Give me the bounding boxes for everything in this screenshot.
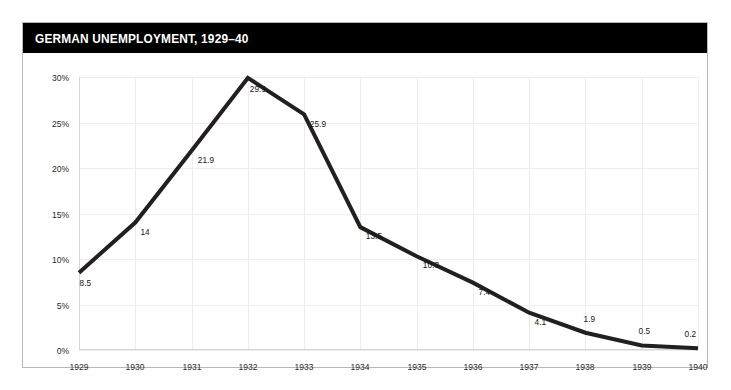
data-point-label: 21.9 bbox=[197, 155, 215, 165]
x-axis-tick-label: 1937 bbox=[519, 361, 540, 372]
x-axis-tick-text: 1940 bbox=[688, 361, 707, 372]
chart-title-bar: GERMAN UNEMPLOYMENT, 1929–40 bbox=[23, 23, 707, 53]
x-axis-tick-label: 1938 bbox=[575, 361, 596, 372]
data-point-label: 4.1 bbox=[534, 317, 547, 327]
x-axis-tick-label: 1939 bbox=[631, 361, 652, 372]
y-axis-tick-label: 25% bbox=[51, 117, 70, 128]
x-axis-tick-text: 1937 bbox=[520, 361, 539, 372]
x-axis-tick-label: 1929 bbox=[68, 361, 89, 372]
data-point-label: 8.5 bbox=[79, 278, 92, 288]
data-point-label-text: 8.5 bbox=[80, 278, 92, 288]
x-axis-tick-label: 1935 bbox=[406, 361, 427, 372]
data-point-label: 1.9 bbox=[583, 314, 596, 324]
x-axis-tick-text: 1931 bbox=[182, 361, 201, 372]
data-point-label: 0.2 bbox=[684, 329, 697, 339]
unemployment-line bbox=[79, 78, 698, 348]
x-axis-tick-text: 1935 bbox=[407, 361, 426, 372]
x-axis-tick-text: 1929 bbox=[69, 361, 88, 372]
x-axis-tick-label: 1940 bbox=[687, 361, 708, 372]
data-point-label-text: 21.9 bbox=[197, 155, 213, 165]
x-axis-tick-label: 1931 bbox=[181, 361, 202, 372]
y-axis-tick-text: 25% bbox=[52, 117, 69, 128]
y-axis-tick-label: 20% bbox=[51, 163, 70, 174]
data-point-label-text: 25.9 bbox=[310, 119, 326, 129]
x-axis-tick-text: 1939 bbox=[632, 361, 651, 372]
gridline-horizontal bbox=[79, 350, 698, 351]
page-title: GERMAN UNEMPLOYMENT, 1929–40 bbox=[35, 31, 278, 46]
y-axis-tick-text: 10% bbox=[52, 254, 69, 265]
y-axis-tick-label: 5% bbox=[56, 299, 70, 310]
x-axis-tick-text: 1930 bbox=[126, 361, 145, 372]
gridline-vertical bbox=[698, 77, 699, 350]
data-point-label: 25.9 bbox=[309, 119, 327, 129]
x-axis-tick-text: 1936 bbox=[463, 361, 482, 372]
data-point-label-text: 1.9 bbox=[584, 314, 596, 324]
y-axis-tick-label: 10% bbox=[51, 254, 70, 265]
data-point-label: 10.3 bbox=[422, 260, 440, 270]
plot-wrapper: 0%5%10%15%20%25%30% 19291930193119321933… bbox=[23, 53, 707, 367]
y-axis-tick-label: 0% bbox=[56, 345, 70, 356]
y-axis-tick-label: 15% bbox=[51, 208, 70, 219]
x-axis-tick-label: 1936 bbox=[462, 361, 483, 372]
y-axis-tick-text: 5% bbox=[57, 299, 69, 310]
data-point-label: 13.5 bbox=[365, 231, 383, 241]
data-point-label-text: 13.5 bbox=[366, 231, 382, 241]
y-axis-tick-text: 15% bbox=[52, 208, 69, 219]
data-point-label-text: 0.5 bbox=[638, 326, 650, 336]
x-axis-tick-label: 1932 bbox=[237, 361, 258, 372]
x-axis-tick-text: 1933 bbox=[295, 361, 314, 372]
y-axis-tick-text: 20% bbox=[52, 163, 69, 174]
chart-figure: GERMAN UNEMPLOYMENT, 1929–40 0%5%10%15%2… bbox=[22, 22, 708, 368]
y-axis-tick-text: 30% bbox=[52, 72, 69, 83]
series-line-chart bbox=[79, 77, 698, 350]
x-axis-tick-text: 1934 bbox=[351, 361, 370, 372]
data-point-label-text: 29.9 bbox=[250, 84, 266, 94]
data-point-label: 0.5 bbox=[638, 326, 651, 336]
y-axis-tick-label: 30% bbox=[51, 72, 70, 83]
x-axis-tick-label: 1933 bbox=[294, 361, 315, 372]
x-axis-tick-text: 1932 bbox=[238, 361, 257, 372]
data-point-label: 7.4 bbox=[478, 287, 491, 297]
plot-area: 0%5%10%15%20%25%30% 19291930193119321933… bbox=[79, 77, 698, 350]
data-point-label: 14 bbox=[140, 227, 150, 237]
data-point-label-text: 7.4 bbox=[478, 287, 490, 297]
chart-title-text: GERMAN UNEMPLOYMENT, 1929–40 bbox=[35, 31, 249, 46]
data-point-label: 29.9 bbox=[249, 84, 267, 94]
data-point-label-text: 14 bbox=[141, 227, 150, 237]
y-axis-tick-text: 0% bbox=[57, 345, 69, 356]
x-axis-tick-label: 1930 bbox=[125, 361, 146, 372]
data-point-label-text: 0.2 bbox=[685, 329, 697, 339]
x-axis-tick-label: 1934 bbox=[350, 361, 371, 372]
x-axis-tick-text: 1938 bbox=[576, 361, 595, 372]
data-point-label-text: 4.1 bbox=[535, 317, 547, 327]
data-point-label-text: 10.3 bbox=[422, 260, 438, 270]
